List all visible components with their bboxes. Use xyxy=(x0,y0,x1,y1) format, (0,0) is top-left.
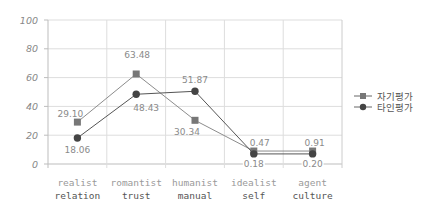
x-tick-label-top: humanist xyxy=(172,177,218,188)
data-label: 48.43 xyxy=(133,103,159,113)
y-tick-label: 40 xyxy=(26,101,38,112)
square-marker-icon xyxy=(74,119,81,126)
square-marker-icon xyxy=(192,117,199,124)
x-axis: realistrelationromantisttrusthumanistman… xyxy=(55,177,333,201)
data-label: 29.10 xyxy=(58,109,84,119)
x-tick-label-bottom: relation xyxy=(55,190,101,201)
x-tick-label-bottom: self xyxy=(242,190,265,201)
circle-marker-icon xyxy=(250,150,257,157)
x-tick-label-top: idealist xyxy=(231,177,277,188)
data-label: 51.87 xyxy=(182,75,208,85)
circle-marker-icon xyxy=(309,150,316,157)
x-tick-label-top: romantist xyxy=(110,177,161,188)
y-tick-label: 0 xyxy=(32,159,38,170)
x-tick-label-bottom: trust xyxy=(122,190,151,201)
x-tick-label-bottom: culture xyxy=(293,190,333,201)
legend-circle-icon xyxy=(360,104,366,110)
legend-label: 타인평가 xyxy=(377,102,413,113)
y-tick-label: 20 xyxy=(26,130,38,141)
data-label: 0.47 xyxy=(250,138,270,148)
circle-marker-icon xyxy=(74,134,81,141)
x-tick-label-top: realist xyxy=(57,177,97,188)
x-tick-label-bottom: manual xyxy=(178,190,212,201)
data-label: 18.06 xyxy=(65,145,91,155)
legend-square-icon xyxy=(360,93,366,99)
legend-label: 자기평가 xyxy=(377,91,413,102)
circle-marker-icon xyxy=(191,88,198,95)
line-chart: 020406080100 realistrelationromantisttru… xyxy=(0,0,432,214)
y-tick-label: 80 xyxy=(26,43,38,54)
data-label: 0.20 xyxy=(303,159,323,169)
series-line xyxy=(77,74,312,151)
data-label: 0.18 xyxy=(244,159,264,169)
data-label: 30.34 xyxy=(174,127,200,137)
y-tick-label: 60 xyxy=(26,72,38,83)
square-marker-icon xyxy=(133,71,140,78)
y-tick-label: 100 xyxy=(20,15,38,26)
data-label: 63.48 xyxy=(124,50,150,60)
data-label: 0.91 xyxy=(305,138,325,148)
circle-marker-icon xyxy=(133,91,140,98)
y-axis: 020406080100 xyxy=(20,15,48,170)
legend: 자기평가타인평가 xyxy=(354,91,413,113)
x-tick-label-top: agent xyxy=(298,177,327,188)
